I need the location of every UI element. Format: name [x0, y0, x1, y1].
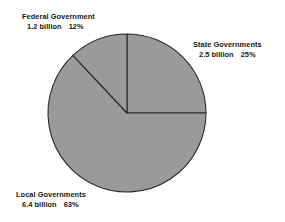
pie-chart-graphic: [0, 0, 285, 222]
pie-slices: [48, 34, 206, 192]
pie-label-local-governments: Local Governments 6.4 billion63%: [16, 190, 86, 209]
pie-chart-figure: Federal Government 1.2 billion12% State …: [0, 0, 285, 222]
pie-label-federal-government: Federal Government 1.2 billion12%: [22, 12, 95, 31]
pie-label-state-value: 2.5 billion25%: [193, 50, 262, 60]
pie-label-local-amount: 6.4 billion: [22, 200, 57, 209]
pie-label-federal-percent: 12%: [69, 22, 84, 31]
pie-label-local-title: Local Governments: [16, 190, 86, 200]
pie-label-state-amount: 2.5 billion: [199, 50, 234, 59]
pie-label-state-governments: State Governments 2.5 billion25%: [193, 40, 262, 59]
pie-label-local-value: 6.4 billion63%: [16, 200, 86, 210]
pie-label-federal-value: 1.2 billion12%: [22, 22, 95, 32]
pie-label-state-percent: 25%: [241, 50, 256, 59]
pie-label-federal-title: Federal Government: [22, 12, 95, 22]
pie-label-state-title: State Governments: [193, 40, 262, 50]
pie-label-local-percent: 63%: [64, 200, 79, 209]
pie-label-federal-amount: 1.2 billion: [27, 22, 62, 31]
